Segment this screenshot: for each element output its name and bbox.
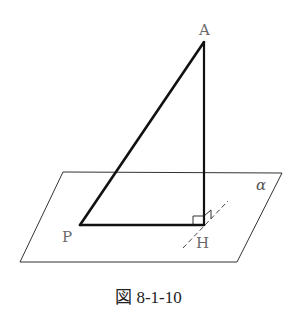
diagram-canvas: A P H α: [0, 0, 297, 317]
label-A: A: [198, 21, 210, 39]
label-P: P: [62, 228, 72, 246]
label-H: H: [196, 234, 209, 252]
right-angle-marker: [193, 216, 204, 225]
label-plane-alpha: α: [256, 176, 266, 194]
plane-alpha: [20, 172, 282, 262]
figure-caption: 図 8-1-10: [0, 283, 297, 308]
segment-AP: [80, 42, 204, 225]
